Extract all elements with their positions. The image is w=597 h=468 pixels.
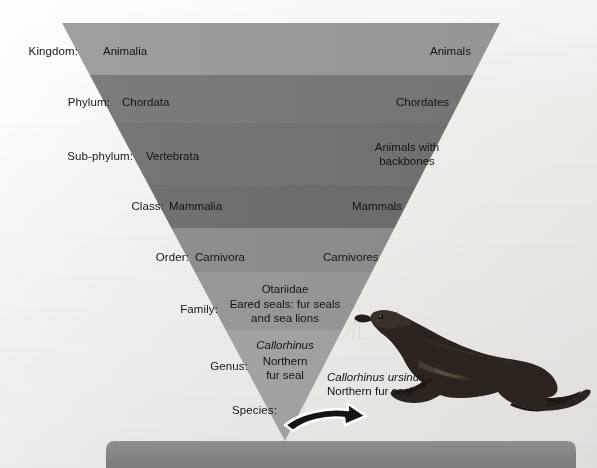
common-name-kingdom: Animals — [430, 45, 471, 57]
rank-label-species: Species: — [0, 404, 277, 416]
species-callout: Callorhinus ursinus Northern fur seal — [327, 370, 425, 398]
scientific-name-subphylum: Vertebrata — [146, 150, 199, 162]
common-name-family: Eared seals: fur sealsand sea lions — [209, 298, 361, 325]
rank-label-subphylum: Sub-phylum: — [0, 150, 133, 162]
species-common-name: Northern fur seal — [327, 384, 425, 398]
rank-label-order: Order: — [0, 251, 189, 263]
common-name-phylum: Chordates — [396, 96, 449, 108]
scientific-name-kingdom: Animalia — [103, 45, 147, 57]
bottom-bar — [106, 441, 576, 468]
scientific-name-phylum: Chordata — [122, 96, 169, 108]
species-scientific-name: Callorhinus ursinus — [327, 370, 425, 384]
common-name-order: Carnivores — [323, 251, 379, 263]
common-name-genus: Northernfur seal — [230, 355, 340, 382]
rank-label-family: Family: — [0, 303, 218, 315]
scientific-name-family: Otariidae — [219, 283, 351, 295]
rank-label-class: Class: — [0, 200, 164, 212]
scientific-name-class: Mammalia — [169, 200, 222, 212]
scientific-name-order: Carnivora — [195, 251, 245, 263]
rank-label-phylum: Phylum: — [0, 96, 110, 108]
common-name-subphylum: Animals withbackbones — [348, 141, 466, 168]
band-kingdom — [0, 23, 597, 75]
band-order — [0, 228, 597, 272]
rank-label-genus: Genus: — [0, 360, 248, 372]
common-name-class: Mammals — [352, 200, 402, 212]
rank-label-kingdom: Kingdom: — [0, 45, 78, 57]
scientific-name-genus: Callorhinus — [225, 339, 345, 351]
figure-canvas: Kingdom: Phylum: Sub-phylum: Class: Orde… — [0, 0, 597, 468]
taxonomy-pyramid — [0, 0, 597, 468]
